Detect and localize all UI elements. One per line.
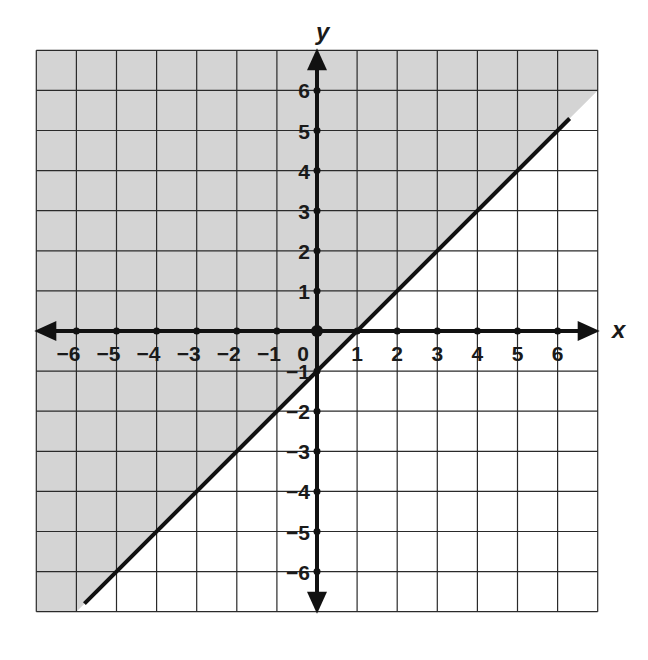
y-tick-label: −1 [286,360,310,383]
y-tick-label: 5 [298,120,310,143]
y-tick-dot [314,568,321,575]
x-tick-dot [311,325,323,337]
y-tick-label: −3 [286,440,310,463]
y-tick-label: −6 [286,561,310,584]
x-tick-dot [193,328,200,335]
y-tick-dot [314,408,321,415]
x-tick-dot [153,328,160,335]
x-tick-label: 3 [431,342,443,365]
y-tick-dot [314,127,321,134]
y-tick-dot [314,488,321,495]
y-tick-label: 3 [298,200,310,223]
x-axis-label: x [610,316,627,343]
x-tick-label: 5 [512,342,524,365]
y-tick-label: 2 [298,240,310,263]
x-tick-dot [474,328,481,335]
x-tick-label: 4 [472,342,484,365]
y-tick-dot [314,287,321,294]
y-tick-dot [314,247,321,254]
x-tick-label: −2 [217,342,241,365]
y-tick-label: 1 [298,280,310,303]
x-tick-dot [394,328,401,335]
x-tick-dot [233,328,240,335]
x-tick-label: −6 [56,342,80,365]
coordinate-plane: −6−5−4−3−2−10123456−6−5−4−3−2−1123456 x … [0,0,648,660]
y-tick-dot [314,448,321,455]
x-tick-dot [113,328,120,335]
y-tick-dot [314,528,321,535]
y-axis-down-arrow-icon [307,592,327,614]
x-tick-label: −5 [97,342,121,365]
x-tick-label: −4 [137,342,161,365]
x-tick-dot [554,328,561,335]
x-tick-dot [514,328,521,335]
x-tick-label: −1 [257,342,281,365]
x-tick-label: 2 [391,342,403,365]
x-tick-label: 6 [552,342,564,365]
y-tick-label: −2 [286,400,310,423]
x-tick-label: −3 [177,342,201,365]
x-tick-dot [434,328,441,335]
y-tick-dot [314,207,321,214]
y-tick-label: −4 [286,480,310,503]
y-tick-label: 4 [298,160,310,183]
x-tick-dot [273,328,280,335]
y-tick-label: −5 [286,521,310,544]
y-axis-label: y [315,18,331,45]
x-tick-label: 1 [351,342,363,365]
y-tick-dot [314,87,321,94]
y-tick-label: 6 [298,79,310,102]
y-tick-dot [314,167,321,174]
x-axis-right-arrow-icon [578,321,600,341]
x-tick-dot [73,328,80,335]
